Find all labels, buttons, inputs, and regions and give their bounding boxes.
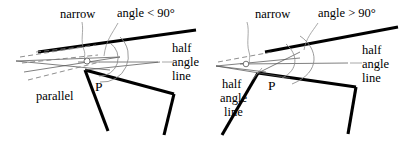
right-construction-line-c xyxy=(216,66,266,72)
left-angle-condition-label: angle < 90° xyxy=(117,6,175,20)
right-angle-condition-leader xyxy=(304,23,318,50)
right-half-angle-line-left-label-1: half xyxy=(222,77,242,91)
right-half-angle-line-left-label-3: line xyxy=(224,105,243,119)
geometry-diagram-svg: narrow angle < 90° half angle line paral… xyxy=(0,0,408,145)
right-narrow-leader xyxy=(247,22,250,63)
right-panel-group: narrow angle > 90° half angle line half … xyxy=(216,6,398,135)
right-narrow-label: narrow xyxy=(255,7,290,21)
right-half-angle-line-right-label-1: half xyxy=(362,43,382,57)
right-intersection-marker xyxy=(243,61,249,67)
left-half-angle-line-label-3: line xyxy=(172,69,191,83)
left-construction-line-a xyxy=(16,57,120,61)
right-construction-line-a xyxy=(216,58,300,66)
left-half-angle-line-label-1: half xyxy=(172,41,192,55)
left-narrow-leader xyxy=(82,22,86,60)
left-polygon-right-leg xyxy=(164,94,174,135)
left-vertex-label-p: P xyxy=(95,79,103,94)
right-dashed-line-a xyxy=(218,52,272,62)
right-vertex-label-p: P xyxy=(268,78,276,93)
left-half-angle-line-label-2: angle xyxy=(172,55,200,69)
figure-root: narrow angle < 90° half angle line paral… xyxy=(0,0,408,145)
right-half-angle-line-right-label-2: angle xyxy=(362,57,390,71)
left-narrow-label: narrow xyxy=(60,7,95,21)
right-half-angle-line-right-label-3: line xyxy=(362,71,381,85)
right-polygon-right-leg xyxy=(348,87,356,134)
left-angle-condition-leader xyxy=(104,23,118,56)
right-half-angle-ray xyxy=(240,63,348,64)
right-angle-condition-label: angle > 90° xyxy=(318,6,376,20)
left-parallel-label: parallel xyxy=(36,89,74,103)
right-half-angle-line-left-label-2: angle xyxy=(220,91,248,105)
left-panel-group: narrow angle < 90° half angle line paral… xyxy=(16,6,200,135)
